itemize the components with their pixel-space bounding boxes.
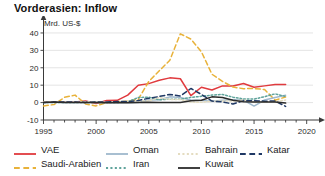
line-chart-svg: -10010203040 199520002005201020152020 Mr…: [0, 16, 325, 138]
gridlines: [44, 33, 314, 103]
legend-swatch-icon: [14, 145, 36, 155]
chart-legend: VAEOmanBahrainKatar Saudi-ArabienIranKuw…: [0, 143, 325, 176]
y-tick-label: 10: [30, 81, 39, 90]
legend-label: Saudi-Arabien: [41, 159, 101, 169]
legend-swatch-icon: [178, 159, 200, 169]
legend-swatch-icon: [106, 159, 128, 169]
legend-swatch-icon: [14, 159, 36, 169]
x-tick-label: 1995: [35, 127, 53, 136]
plot-area: -10010203040 199520002005201020152020 Mr…: [0, 16, 325, 138]
legend-row: Saudi-ArabienIranKuwait: [14, 157, 325, 171]
x-tick-label: 2000: [87, 127, 105, 136]
legend-item-bahrain[interactable]: Bahrain: [178, 143, 238, 157]
y-tick-label: 40: [30, 29, 39, 38]
y-tick-label: 20: [30, 64, 39, 73]
legend-label: VAE: [41, 145, 59, 155]
legend-label: Kuwait: [205, 159, 234, 169]
data-series-group: [44, 34, 286, 107]
chart-title: Vorderasien: Inflow: [14, 2, 117, 14]
x-tick-label: 2015: [245, 127, 263, 136]
legend-item-kuwait[interactable]: Kuwait: [178, 157, 234, 171]
legend-row: VAEOmanBahrainKatar: [14, 143, 325, 157]
x-tick-label: 2005: [140, 127, 158, 136]
legend-swatch-icon: [178, 145, 200, 155]
legend-swatch-icon: [106, 145, 128, 155]
y-axis-unit-label: Mrd. US-$: [44, 19, 81, 28]
y-tick-label: 30: [30, 46, 39, 55]
x-tick-label: 2010: [193, 127, 211, 136]
legend-label: Iran: [133, 159, 149, 169]
legend-item-vae[interactable]: VAE: [14, 143, 59, 157]
x-axis: 199520002005201020152020: [35, 117, 325, 136]
y-tick-label: -10: [27, 116, 39, 125]
y-tick-label: 0: [34, 98, 39, 107]
legend-item-iran[interactable]: Iran: [106, 157, 149, 171]
legend-swatch-icon: [240, 145, 262, 155]
legend-label: Oman: [133, 145, 159, 155]
legend-label: Katar: [267, 145, 290, 155]
chart-figure: Vorderasien: Inflow -10010203040 1995200…: [0, 0, 325, 176]
legend-item-oman[interactable]: Oman: [106, 143, 159, 157]
y-axis: -10010203040: [27, 16, 46, 125]
legend-item-saudi-arabien[interactable]: Saudi-Arabien: [14, 157, 101, 171]
legend-item-katar[interactable]: Katar: [240, 143, 290, 157]
x-tick-label: 2020: [298, 127, 316, 136]
legend-label: Bahrain: [205, 145, 238, 155]
